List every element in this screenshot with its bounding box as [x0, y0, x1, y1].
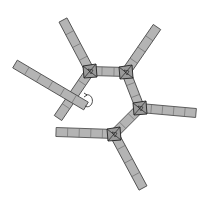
- joint-n4: [107, 127, 121, 141]
- joint-n1: [83, 64, 97, 78]
- bar-arm-n3: [140, 104, 197, 118]
- linkage-diagram: [0, 0, 206, 204]
- joint-n2: [119, 65, 133, 79]
- bars-group: [13, 18, 197, 190]
- bar-arm-n4-left: [56, 128, 114, 139]
- joint-n3: [133, 101, 147, 115]
